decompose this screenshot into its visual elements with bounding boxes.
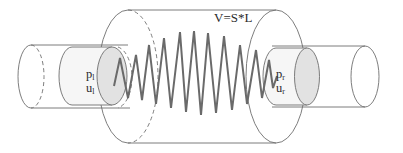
right-piston-face (295, 48, 320, 105)
spring (114, 31, 277, 115)
left-piston-face (97, 47, 127, 105)
volume-label: V=S*L (214, 10, 252, 25)
chamber-spring-diagram: V=S*L pl ul pr ur (0, 0, 403, 153)
